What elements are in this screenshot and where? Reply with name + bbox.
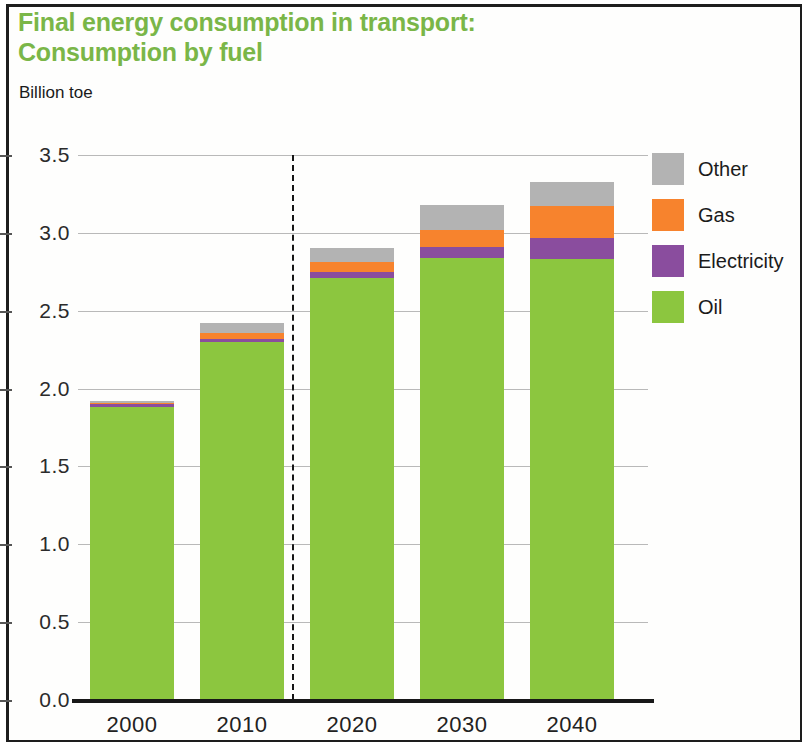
bar-segment-other <box>530 182 614 207</box>
y-axis-tick-mark <box>0 622 12 624</box>
y-axis-tick-label: 1.5 <box>12 454 70 478</box>
legend-item-gas[interactable]: Gas <box>652 192 802 238</box>
bar-2040 <box>530 182 614 701</box>
forecast-divider-line <box>292 155 294 700</box>
x-axis-tick-label: 2000 <box>77 712 187 738</box>
y-axis-tick-label: 1.0 <box>12 532 70 556</box>
legend-swatch-icon <box>652 199 684 231</box>
y-axis-tick-mark <box>0 389 12 391</box>
legend-item-other[interactable]: Other <box>652 146 802 192</box>
legend-item-oil[interactable]: Oil <box>652 284 802 330</box>
bar-2010 <box>200 323 284 700</box>
legend-item-label: Gas <box>698 204 735 227</box>
bar-segment-gas <box>530 206 614 237</box>
y-axis-tick-label: 0.5 <box>12 610 70 634</box>
bar-segment-oil <box>310 278 394 700</box>
bar-segment-gas <box>420 230 504 247</box>
y-axis-tick-label: 3.0 <box>12 221 70 245</box>
y-axis-tick-label: 0.0 <box>12 688 70 712</box>
bar-segment-electricity <box>530 238 614 260</box>
bar-segment-oil <box>530 259 614 700</box>
y-axis-tick-mark <box>0 155 12 157</box>
legend-swatch-icon <box>652 153 684 185</box>
y-axis-tick-mark <box>0 466 12 468</box>
y-axis-tick-mark <box>0 311 12 313</box>
legend: OtherGasElectricityOil <box>652 146 802 330</box>
bar-segment-oil <box>200 342 284 700</box>
legend-item-label: Oil <box>698 296 722 319</box>
y-axis: 0.00.51.01.52.02.53.03.5 <box>8 155 70 700</box>
y-axis-tick-label: 3.5 <box>12 143 70 167</box>
bar-segment-electricity <box>420 247 504 258</box>
bar-segment-oil <box>90 407 174 700</box>
legend-item-label: Other <box>698 158 748 181</box>
chart-subtitle-units: Billion toe <box>19 83 93 103</box>
legend-swatch-icon <box>652 291 684 323</box>
bar-2000 <box>90 401 174 700</box>
bar-segment-gas <box>310 262 394 271</box>
bar-segment-other <box>310 248 394 262</box>
page-title: Final energy consumption in transport: C… <box>18 8 618 67</box>
bar-segment-oil <box>420 258 504 700</box>
legend-item-electricity[interactable]: Electricity <box>652 238 802 284</box>
y-axis-tick-mark <box>0 544 12 546</box>
bar-segment-other <box>200 323 284 332</box>
legend-swatch-icon <box>652 245 684 277</box>
legend-item-label: Electricity <box>698 250 784 273</box>
y-axis-tick-mark <box>0 700 12 702</box>
x-axis-tick-label: 2010 <box>187 712 297 738</box>
bar-segment-other <box>420 205 504 230</box>
y-axis-tick-mark <box>0 233 12 235</box>
y-axis-tick-label: 2.0 <box>12 377 70 401</box>
plot-area <box>78 155 648 700</box>
x-axis-tick-label: 2040 <box>517 712 627 738</box>
x-axis-tick-label: 2020 <box>297 712 407 738</box>
bar-2020 <box>310 248 394 700</box>
x-axis-line <box>72 699 654 703</box>
x-axis-tick-label: 2030 <box>407 712 517 738</box>
bar-2030 <box>420 205 504 700</box>
y-axis-tick-label: 2.5 <box>12 299 70 323</box>
gridline <box>78 155 648 156</box>
